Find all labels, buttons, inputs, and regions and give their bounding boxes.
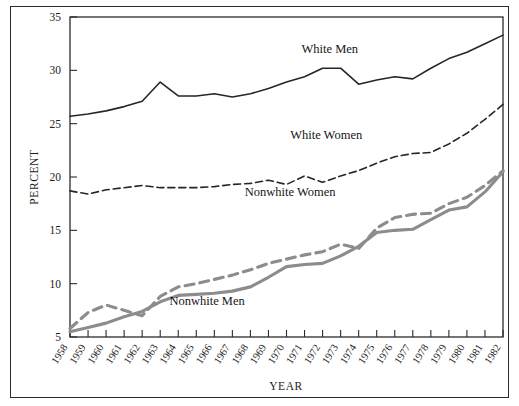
line-chart: 5101520253035 19581959196019611962196319… — [0, 0, 519, 406]
series-label-nonwhite-women: Nonwhite Women — [245, 185, 337, 199]
x-tick-label: 1972 — [302, 342, 322, 366]
series-line-white-women — [70, 104, 503, 194]
y-axis-title: PERCENT — [28, 149, 40, 204]
x-tick-label: 1980 — [446, 342, 466, 366]
x-tick-label: 1973 — [320, 342, 340, 366]
y-tick-label: 20 — [50, 171, 62, 183]
x-tick-label: 1975 — [356, 342, 376, 366]
y-tick-label: 30 — [50, 64, 62, 76]
data-series-group — [70, 35, 503, 332]
x-tick-label: 1976 — [374, 342, 394, 366]
x-tick-label: 1958 — [49, 342, 69, 366]
x-tick-label: 1981 — [464, 342, 484, 366]
x-tick-label: 1965 — [176, 342, 196, 366]
y-tick-label: 5 — [55, 331, 61, 343]
x-axis-tick-labels: 1958195919601961196219631964196519661967… — [49, 342, 502, 366]
x-tick-label: 1982 — [482, 342, 502, 366]
x-tick-label: 1970 — [266, 342, 286, 366]
x-tick-label: 1962 — [121, 342, 141, 366]
y-axis-tick-labels: 5101520253035 — [50, 11, 62, 343]
x-tick-label: 1963 — [139, 342, 159, 366]
figure-container: 5101520253035 19581959196019611962196319… — [0, 0, 519, 406]
x-tick-label: 1966 — [194, 342, 214, 366]
y-tick-label: 10 — [50, 278, 62, 290]
x-tick-label: 1978 — [410, 342, 430, 366]
y-axis-ticks — [70, 17, 77, 337]
y-tick-label: 25 — [50, 118, 62, 130]
series-line-white-men — [70, 35, 503, 116]
x-tick-label: 1968 — [230, 342, 250, 366]
series-label-white-women: White Women — [290, 128, 363, 142]
x-tick-label: 1974 — [338, 342, 359, 366]
x-tick-label: 1971 — [284, 342, 304, 366]
series-annotation-group: White MenWhite WomenNonwhite WomenNonwhi… — [169, 42, 362, 308]
y-tick-label: 15 — [50, 224, 62, 236]
y-tick-label: 35 — [50, 11, 62, 23]
x-axis-title: YEAR — [269, 380, 303, 392]
x-tick-label: 1979 — [428, 342, 448, 366]
series-label-nonwhite-men: Nonwhite Men — [169, 294, 245, 308]
x-tick-label: 1967 — [212, 342, 232, 366]
x-tick-label: 1977 — [392, 342, 412, 366]
x-tick-label: 1960 — [85, 342, 105, 366]
series-label-white-men: White Men — [302, 42, 359, 56]
x-tick-label: 1964 — [157, 342, 178, 366]
x-axis-ticks — [70, 330, 503, 337]
x-tick-label: 1961 — [103, 342, 123, 366]
x-tick-label: 1969 — [248, 342, 268, 366]
x-tick-label: 1959 — [67, 342, 87, 366]
